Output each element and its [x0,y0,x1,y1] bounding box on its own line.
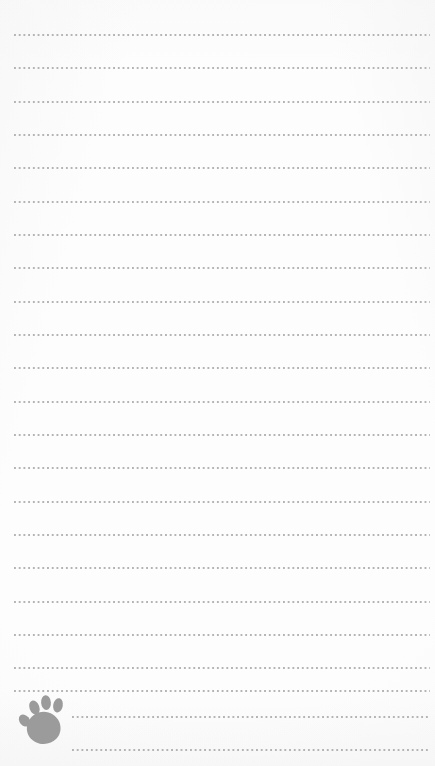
ruled-line [14,134,430,136]
ruled-line [14,434,430,436]
ruled-line [14,690,430,692]
ruled-line [14,201,430,203]
ruled-line [14,301,430,303]
ruled-line [14,401,430,403]
ruled-line [14,667,430,669]
ruled-line [14,367,430,369]
notepad-page [0,0,435,766]
ruled-line [14,267,430,269]
ruled-line [14,167,430,169]
ruled-line [72,749,430,751]
ruled-line [14,234,430,236]
ruled-line [72,716,430,718]
ruled-line [14,534,430,536]
paw-print-icon [16,692,70,748]
ruled-line [14,101,430,103]
ruled-line [14,501,430,503]
ruled-line [14,567,430,569]
ruled-line [14,67,430,69]
ruled-line [14,334,430,336]
ruled-line [14,467,430,469]
ruled-line [14,34,430,36]
ruled-line [14,634,430,636]
paper-shading [0,0,435,766]
ruled-line [14,601,430,603]
